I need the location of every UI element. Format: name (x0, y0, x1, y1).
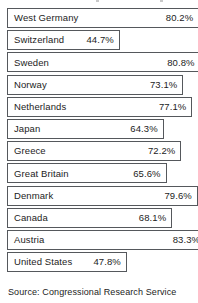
bar-value-label: 68.1% (132, 213, 166, 223)
bar-category-label: Norway (14, 80, 47, 90)
clip-tick-mark (96, 0, 99, 2)
bar-value-label: 77.1% (152, 102, 186, 112)
bar-row: Greece72.2% (7, 141, 181, 161)
bar-row: Canada68.1% (7, 208, 172, 228)
bar-value-label: 80.2% (159, 13, 193, 23)
bar-category-label: Switzerland (14, 35, 64, 45)
bar-category-label: Netherlands (14, 102, 66, 112)
bar-category-label: Austria (14, 235, 44, 245)
bar-row: Great Britain65.6% (7, 163, 167, 183)
bar-row: Denmark79.6% (7, 186, 198, 206)
bar-value-label: 47.8% (86, 257, 120, 267)
bar-value-label: 73.1% (143, 80, 177, 90)
bar-list: West Germany80.2%Switzerland44.7%Sweden8… (0, 8, 198, 280)
bar-row: Switzerland44.7% (7, 30, 120, 50)
source-note: Source: Congressional Research Service (8, 287, 176, 297)
bar-row: Norway73.1% (7, 75, 183, 95)
bar-category-label: Denmark (14, 191, 53, 201)
top-edge-clip (0, 0, 198, 5)
bar-category-label: Japan (14, 124, 40, 134)
bar-category-label: United States (14, 257, 72, 267)
bar-category-label: Sweden (14, 58, 49, 68)
bar-category-label: Greece (14, 146, 46, 156)
bar-value-label: 83.3% (166, 235, 198, 245)
bar-category-label: Great Britain (14, 169, 69, 179)
bar-row: West Germany80.2% (7, 8, 198, 28)
bar-value-label: 44.7% (79, 35, 113, 45)
bar-row: United States47.8% (7, 252, 127, 272)
bar-value-label: 64.3% (123, 124, 157, 134)
bar-chart-figure: West Germany80.2%Switzerland44.7%Sweden8… (0, 0, 198, 303)
bar-value-label: 79.6% (157, 191, 191, 201)
clip-tick-mark (160, 0, 163, 2)
bar-value-label: 72.2% (141, 146, 175, 156)
bar-row: Sweden80.8% (7, 52, 198, 72)
bar-value-label: 80.8% (160, 58, 194, 68)
bar-category-label: West Germany (14, 13, 78, 23)
bar-row: Netherlands77.1% (7, 97, 192, 117)
bar-value-label: 65.6% (126, 169, 160, 179)
bar-category-label: Canada (14, 213, 48, 223)
bar-row: Japan64.3% (7, 119, 164, 139)
bar-row: Austria83.3% (7, 230, 198, 250)
